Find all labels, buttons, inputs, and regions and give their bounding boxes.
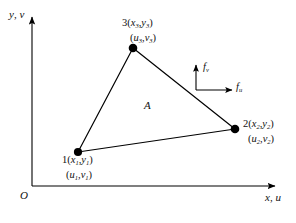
triangle-outline (78, 48, 235, 152)
force-vectors (196, 65, 232, 90)
origin-label: O (20, 190, 28, 201)
area-label: A (144, 100, 151, 111)
triangle-element (78, 48, 235, 152)
x-axis-label: x, u (265, 192, 281, 203)
force-u-label: fu (236, 82, 242, 93)
node-3-xy-label: 3(x3,y3) (122, 18, 153, 29)
node-1-xy-label: 1(x1,y1) (62, 155, 93, 166)
node-2-xy-label: 2(x2,y2) (243, 119, 274, 130)
node-3-uv-label: (u3,v3) (130, 33, 156, 44)
node-2-marker (231, 125, 240, 134)
node-3-marker (129, 44, 138, 53)
y-axis-label: y, v (9, 9, 24, 20)
node-1-uv-label: (u1,v1) (66, 170, 92, 181)
force-v-label: fv (203, 62, 209, 73)
triangle-element-figure: y, v x, u O 3(x3,y3) (u3,v3) 2(x2,y2) (u… (0, 0, 296, 223)
node-2-uv-label: (u2,v2) (248, 134, 274, 145)
